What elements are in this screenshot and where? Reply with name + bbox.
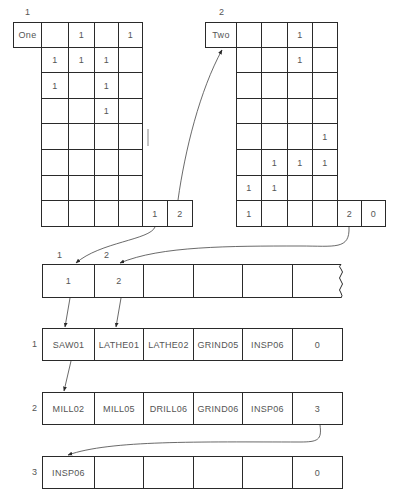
matrix-cell [118, 98, 143, 124]
record-cell [242, 456, 293, 489]
index-cell [143, 264, 194, 298]
matrix-cell [287, 72, 313, 99]
matrix-cell [94, 123, 119, 150]
record-cell [193, 456, 243, 489]
matrix-cell: 1 [68, 47, 95, 73]
index-cell-torn [292, 264, 341, 298]
matrix-cell: 1 [94, 47, 119, 73]
matrix-cell [41, 175, 69, 201]
index-cell: 2 [94, 264, 144, 298]
arrow-two-to-index [120, 227, 349, 263]
matrix-one-pointer-cell: 1 [142, 200, 168, 227]
matrix-cell [68, 149, 95, 176]
matrix-cell: 1 [68, 22, 95, 48]
matrix-cell [312, 47, 338, 73]
matrix-cell: 1 [94, 98, 119, 124]
matrix-cell [41, 149, 69, 176]
matrix-cell [118, 123, 143, 150]
record-cell: GRIND05 [193, 328, 243, 361]
record-link-cell: 3 [292, 392, 343, 425]
matrix-cell [236, 22, 262, 48]
matrix-cell: 1 [312, 123, 338, 150]
record-cell: LATHE02 [143, 328, 194, 361]
matrix-two-name-cell: Two [205, 22, 237, 48]
index-column-label: 2 [104, 250, 109, 260]
matrix-cell [41, 22, 69, 48]
matrix-cell: 1 [287, 149, 313, 176]
record-cell: INSP06 [242, 328, 293, 361]
matrix-cell [68, 72, 95, 99]
matrix-cell [261, 72, 288, 99]
matrix-cell [94, 22, 119, 48]
matrix-cell [261, 98, 288, 124]
matrix-cell [287, 200, 313, 227]
matrix-cell [236, 123, 262, 150]
matrix-cell [312, 200, 338, 227]
matrix-cell [312, 175, 338, 201]
matrix-cell: 1 [287, 22, 313, 48]
arrow-one-to-two [178, 50, 222, 200]
matrix-cell [261, 47, 288, 73]
record-link-cell: 0 [292, 328, 343, 361]
matrix-one-name-cell: One [13, 22, 42, 48]
matrix-cell [312, 22, 338, 48]
matrix-cell [261, 123, 288, 150]
index-cell: 1 [42, 264, 95, 298]
arrow-record1-to-record2 [64, 361, 71, 391]
matrix-cell [236, 72, 262, 99]
matrix-cell [94, 200, 119, 227]
matrix-cell [118, 175, 143, 201]
arrow-index2-to-record1 [116, 298, 121, 327]
matrix-cell [261, 22, 288, 48]
record-cell [94, 456, 144, 489]
matrix-cell: 1 [261, 149, 288, 176]
matrix-cell [118, 72, 143, 99]
matrix-cell [287, 123, 313, 150]
record-cell [143, 456, 194, 489]
record-label: 3 [32, 467, 37, 477]
matrix-cell [41, 200, 69, 227]
matrix-cell: 1 [94, 72, 119, 99]
index-column-label: 1 [57, 250, 62, 260]
matrix-cell [312, 72, 338, 99]
matrix-one-pointer-cell: 2 [167, 200, 193, 227]
matrix-two-label: 2 [219, 7, 224, 17]
matrix-cell: 1 [41, 47, 69, 73]
matrix-cell: 1 [41, 72, 69, 99]
matrix-cell [312, 98, 338, 124]
matrix-cell [236, 149, 262, 176]
record-link-cell: 0 [292, 456, 343, 489]
matrix-cell [41, 123, 69, 150]
matrix-cell: 1 [118, 22, 143, 48]
record-cell: MILL05 [94, 392, 144, 425]
matrix-cell [287, 98, 313, 124]
matrix-cell [236, 47, 262, 73]
matrix-one-label: 1 [25, 7, 30, 17]
matrix-cell [94, 149, 119, 176]
index-cell [193, 264, 243, 298]
matrix-two-pointer-cell: 0 [361, 200, 386, 227]
record-cell: SAW01 [42, 328, 95, 361]
index-cell [242, 264, 293, 298]
matrix-cell [68, 175, 95, 201]
record-cell: LATHE01 [94, 328, 144, 361]
matrix-cell [68, 123, 95, 150]
matrix-cell [118, 200, 143, 227]
matrix-cell: 1 [236, 200, 262, 227]
arrow-index1-to-record1 [65, 298, 70, 327]
arrow-record2-to-record3 [68, 425, 320, 455]
record-label: 1 [32, 339, 37, 349]
matrix-two-pointer-cell: 2 [337, 200, 362, 227]
record-cell: INSP06 [242, 392, 293, 425]
record-cell: DRILL06 [143, 392, 194, 425]
matrix-cell [41, 98, 69, 124]
matrix-cell: 1 [312, 149, 338, 176]
record-cell: MILL02 [42, 392, 95, 425]
matrix-cell [287, 175, 313, 201]
record-label: 2 [32, 403, 37, 413]
matrix-cell [68, 98, 95, 124]
matrix-cell: 1 [236, 175, 262, 201]
matrix-cell: 1 [261, 175, 288, 201]
record-cell: GRIND06 [193, 392, 243, 425]
matrix-cell [261, 200, 288, 227]
